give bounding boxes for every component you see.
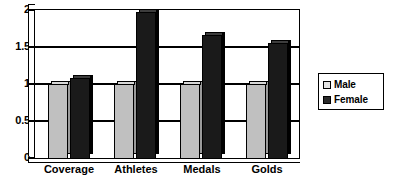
legend-item-female: Female xyxy=(323,92,380,107)
legend-label-female: Female xyxy=(334,94,368,105)
bar-male-medals xyxy=(180,84,200,159)
x-tick-label-medals: Medals xyxy=(167,163,237,176)
bar-male-athletes xyxy=(114,84,134,159)
bar-female-coverage xyxy=(70,78,90,159)
x-axis: Coverage Athletes Medals Golds xyxy=(34,163,300,183)
y-tick-label-2: 2 xyxy=(0,4,30,15)
legend-item-male: Male xyxy=(323,77,380,92)
x-tick-label-coverage: Coverage xyxy=(34,163,104,176)
bar-male-golds xyxy=(246,84,266,159)
bar-female-medals xyxy=(202,35,222,160)
x-tick-label-athletes: Athletes xyxy=(101,163,171,176)
bars-layer xyxy=(34,9,300,159)
y-tick-label-0-5: 0.5 xyxy=(0,115,30,126)
bar-female-athletes xyxy=(136,12,156,159)
x-tick-label-golds: Golds xyxy=(232,163,302,176)
bar-chart: 2 1.5 1 0.5 0 Coverage Athletes Medal xyxy=(0,0,399,188)
y-tick-label-0: 0 xyxy=(0,152,30,163)
y-axis: 2 1.5 1 0.5 0 xyxy=(0,0,30,188)
legend-label-male: Male xyxy=(334,79,356,90)
y-tick-label-1: 1 xyxy=(0,78,30,89)
legend-swatch-female-icon xyxy=(323,96,331,104)
chart-legend: Male Female xyxy=(318,73,384,110)
y-tick-label-1-5: 1.5 xyxy=(0,41,30,52)
bar-male-coverage xyxy=(48,84,68,159)
bar-female-golds xyxy=(268,43,288,159)
legend-swatch-male-icon xyxy=(323,81,331,89)
